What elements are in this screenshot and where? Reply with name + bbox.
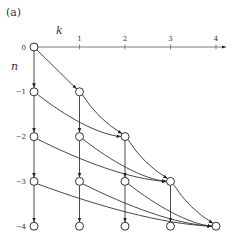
- diagonal-edge: [82, 95, 122, 134]
- lattice-node: [30, 222, 38, 230]
- lattice-node: [76, 177, 84, 185]
- lattice-node: [167, 222, 175, 230]
- lattice-node: [76, 88, 84, 96]
- diagonal-edge: [37, 50, 77, 89]
- diagonal-edge: [37, 139, 166, 181]
- n-tick-label: −3: [16, 178, 26, 186]
- k-tick-label: 3: [168, 35, 172, 43]
- lattice-node: [167, 177, 175, 185]
- k-tick-label: 2: [123, 35, 127, 43]
- lattice-node: [30, 133, 38, 141]
- n-tick-label: −1: [16, 88, 26, 96]
- diagonal-edge: [173, 184, 213, 223]
- n-axis-label: n: [11, 60, 18, 73]
- lattice-node: [121, 133, 129, 141]
- lattice-node: [30, 88, 38, 96]
- lattice-node: [76, 133, 84, 141]
- lattice-node: [121, 222, 129, 230]
- lattice-diagram: (a) k n 12340−1−2−3−4: [0, 0, 238, 243]
- k-axis-label: k: [56, 24, 63, 37]
- lattice-node: [121, 177, 129, 185]
- n-tick-label: 0: [22, 44, 26, 52]
- k-tick-label: 1: [77, 35, 81, 43]
- n-tick-label: −2: [16, 133, 26, 141]
- lattice-node: [30, 43, 38, 51]
- n-tick-label: −4: [16, 223, 27, 231]
- lattice-node: [76, 222, 84, 230]
- k-tick-label: 4: [214, 35, 219, 43]
- panel-label: (a): [6, 6, 21, 19]
- diagonal-edge: [128, 139, 168, 178]
- lattice-node: [30, 177, 38, 185]
- lattice-node: [212, 222, 220, 230]
